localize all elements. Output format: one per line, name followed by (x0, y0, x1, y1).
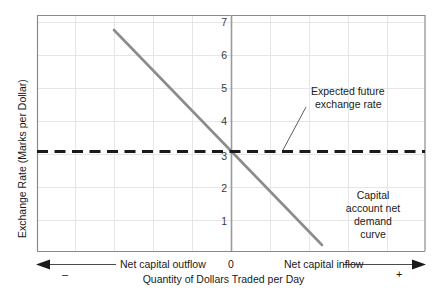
right-arrowhead (412, 260, 426, 270)
y-tick-label-5: 5 (213, 82, 227, 94)
left-arrowhead (36, 260, 50, 270)
expected-rate-annotation-line1: Expected future (311, 85, 385, 97)
y-tick-label-3: 3 (213, 150, 227, 162)
figure-container: Exchange Rate (Marks per Dollar) 7 6 5 4… (0, 0, 447, 299)
y-tick-label-2: 2 (213, 182, 227, 194)
x-axis-label: Quantity of Dollars Traded per Day (0, 273, 447, 285)
net-capital-outflow-label: Net capital outflow (120, 258, 206, 270)
y-tick-label-7: 7 (213, 16, 227, 28)
expected-rate-annotation-line2: exchange rate (315, 98, 382, 110)
y-axis-label: Exchange Rate (Marks per Dollar) (16, 79, 28, 238)
y-tick-label-4: 4 (213, 115, 227, 127)
demand-curve-annotation-line2: account net (330, 202, 416, 214)
origin-label: 0 (228, 258, 234, 270)
y-tick-label-6: 6 (213, 49, 227, 61)
y-tick-label-1: 1 (213, 215, 227, 227)
net-capital-inflow-label: Net capital inflow (284, 258, 363, 270)
demand-curve-annotation-line3: demand (330, 215, 416, 227)
demand-curve-annotation-line4: curve (330, 228, 416, 240)
demand-curve-annotation-line1: Capital (330, 189, 416, 201)
